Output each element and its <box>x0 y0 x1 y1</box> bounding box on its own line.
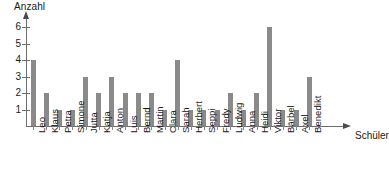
x-tick-mark <box>204 126 205 130</box>
x-tick-label: Heidi <box>260 111 270 133</box>
x-tick-mark <box>33 126 34 130</box>
x-tick-label: Ludwig <box>234 103 244 133</box>
y-tick-label: 2 <box>10 88 21 98</box>
x-tick-label: Luis <box>129 115 139 133</box>
x-tick-label: Katja <box>102 111 112 133</box>
x-tick-label: Clara <box>168 110 178 133</box>
y-tick-mark <box>22 27 30 28</box>
x-tick-label: Anna <box>247 111 257 133</box>
x-tick-label: Benedikt <box>313 96 323 133</box>
x-tick-label: Viktor <box>273 109 283 133</box>
x-tick-label: Herbert <box>194 101 204 133</box>
bar <box>31 60 36 126</box>
y-tick-label: 6 <box>10 22 21 32</box>
x-tick-label: Fredy <box>221 108 231 133</box>
x-tick-label: Sarah <box>181 107 191 133</box>
x-tick-label: Axel <box>300 114 310 133</box>
x-tick-label: Klaus <box>50 109 60 133</box>
x-tick-label: Leo <box>37 117 47 133</box>
y-tick-mark <box>22 77 30 78</box>
y-tick-label: 3 <box>10 72 21 82</box>
y-tick-label: 4 <box>10 55 21 65</box>
x-axis-title: Schüler <box>355 130 389 141</box>
x-tick-mark <box>296 126 297 130</box>
x-tick-label: Bernd <box>142 107 152 133</box>
y-axis-arrow-icon <box>23 11 29 19</box>
y-tick-label: 5 <box>10 39 21 49</box>
y-tick-mark <box>22 110 30 111</box>
x-tick-label: Simone <box>76 100 86 133</box>
x-tick-mark <box>112 126 113 130</box>
x-tick-label: Seppi <box>207 108 217 133</box>
x-tick-label: Bärbel <box>286 105 296 133</box>
x-tick-label: Anton <box>115 108 125 133</box>
y-tick-mark <box>22 60 30 61</box>
y-tick-label: 1 <box>10 105 21 115</box>
x-axis-arrow-icon <box>343 123 351 129</box>
y-tick-mark <box>22 44 30 45</box>
y-tick-mark <box>22 93 30 94</box>
x-tick-label: Jutta <box>89 112 99 133</box>
x-tick-mark <box>217 126 218 130</box>
x-tick-label: Petra <box>63 110 73 133</box>
x-tick-label: Martin <box>155 106 165 133</box>
x-tick-mark <box>125 126 126 130</box>
